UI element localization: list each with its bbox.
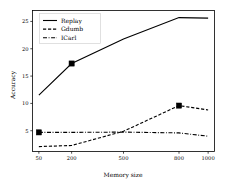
x-tick-label: 200 xyxy=(67,155,77,161)
x-tick-label: 500 xyxy=(119,155,129,161)
legend-label-icarl: ICarl xyxy=(61,34,76,41)
x-axis-tick-labels: 502005008001000 xyxy=(36,155,215,161)
y-axis-title: Accuracy xyxy=(9,70,17,100)
x-axis-title: Memory size xyxy=(104,171,143,179)
series-line-gdumb xyxy=(39,106,208,147)
x-tick-label: 800 xyxy=(174,155,184,161)
series-line-icarl xyxy=(39,132,208,136)
y-axis-tick-labels: 510152025 xyxy=(22,18,29,133)
x-tick-label: 50 xyxy=(36,155,43,161)
y-tick-label: 20 xyxy=(22,46,29,52)
data-point-marker-gdumb xyxy=(176,103,181,108)
data-point-marker-icarl xyxy=(36,130,41,135)
x-tick-label: 1000 xyxy=(202,155,215,161)
y-tick-label: 25 xyxy=(22,18,29,24)
data-point-marker-replay xyxy=(69,61,74,66)
chart-figure: 510152025 502005008001000 Memory size Ac… xyxy=(0,0,230,186)
legend-label-replay: Replay xyxy=(61,17,82,25)
chart-legend: ReplayGdumbICarl xyxy=(40,14,101,44)
y-tick-label: 10 xyxy=(22,100,29,106)
y-tick-label: 15 xyxy=(22,73,29,79)
line-chart: 510152025 502005008001000 Memory size Ac… xyxy=(0,0,230,186)
legend-label-gdumb: Gdumb xyxy=(61,25,83,32)
y-tick-label: 5 xyxy=(25,128,28,134)
data-markers-group xyxy=(36,61,181,135)
